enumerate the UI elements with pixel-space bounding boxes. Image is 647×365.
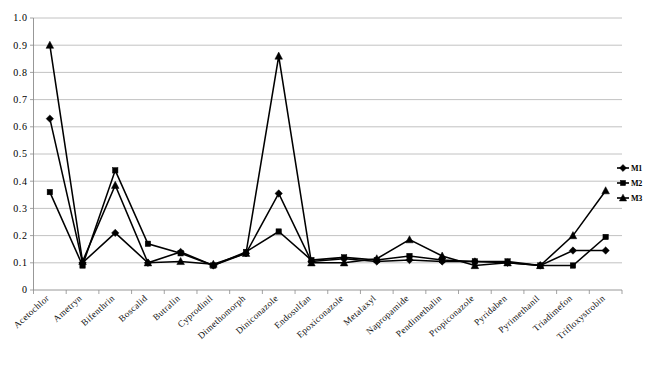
- x-axis-tick-labels: AcetochlorAmetrynBifenthrinBoscalidButra…: [12, 293, 607, 341]
- legend-item-m2: M2: [617, 179, 642, 188]
- y-tick-label: 0.4: [13, 176, 27, 187]
- y-tick-label: 0.9: [13, 40, 27, 51]
- marker-triangle: [406, 236, 414, 243]
- y-tick-label: 0: [22, 284, 28, 295]
- marker-square: [145, 241, 150, 246]
- legend-label: M2: [631, 179, 642, 188]
- marker-square: [113, 168, 118, 173]
- marker-triangle: [111, 181, 119, 188]
- legend-item-m3: M3: [617, 194, 642, 203]
- marker-square: [47, 189, 52, 194]
- marker-diamond: [569, 247, 576, 254]
- marker-diamond: [275, 190, 282, 197]
- x-tick-label: Bifenthrin: [79, 293, 116, 328]
- legend-label: M1: [631, 164, 642, 173]
- series-line-m3: [50, 45, 606, 265]
- chart-container: 00.10.20.30.40.50.60.70.80.91.0 Acetochl…: [0, 0, 647, 365]
- marker-triangle: [46, 41, 54, 48]
- marker-diamond: [602, 247, 609, 254]
- y-tick-label: 0.3: [13, 203, 27, 214]
- y-tick-label: 1.0: [13, 12, 27, 23]
- x-tick-label: Ametryn: [51, 293, 84, 324]
- marker-triangle: [602, 187, 610, 194]
- chart-legend: M1M2M3: [617, 164, 642, 203]
- marker-square: [603, 234, 608, 239]
- y-tick-label: 0.5: [13, 148, 27, 159]
- axes: [30, 18, 622, 294]
- series-m2: [47, 168, 608, 269]
- marker-square: [620, 180, 625, 185]
- marker-square: [178, 251, 183, 256]
- y-tick-label: 0.8: [13, 67, 27, 78]
- marker-square: [276, 229, 281, 234]
- marker-triangle: [275, 52, 283, 59]
- marker-triangle: [438, 252, 446, 259]
- legend-label: M3: [631, 194, 642, 203]
- x-tick-label: Acetochlor: [12, 293, 52, 330]
- series-line-m1: [50, 119, 606, 266]
- series-line-m2: [50, 170, 606, 265]
- y-tick-label: 0.1: [13, 257, 27, 268]
- marker-diamond: [46, 115, 53, 122]
- y-tick-label: 0.2: [13, 230, 27, 241]
- line-chart: 00.10.20.30.40.50.60.70.80.91.0 Acetochl…: [0, 0, 647, 365]
- y-tick-label: 0.7: [13, 94, 27, 105]
- y-tick-label: 0.6: [13, 121, 27, 132]
- marker-square: [570, 263, 575, 268]
- legend-item-m1: M1: [617, 164, 642, 173]
- marker-square: [407, 253, 412, 258]
- series-m3: [46, 41, 609, 268]
- x-tick-label: Butralin: [151, 293, 182, 322]
- data-series: [46, 41, 609, 269]
- gridlines: [34, 18, 623, 263]
- marker-diamond: [619, 164, 626, 171]
- x-tick-label: Boscalid: [117, 293, 150, 324]
- y-axis-tick-labels: 00.10.20.30.40.50.60.70.80.91.0: [13, 12, 27, 295]
- series-m1: [46, 115, 609, 269]
